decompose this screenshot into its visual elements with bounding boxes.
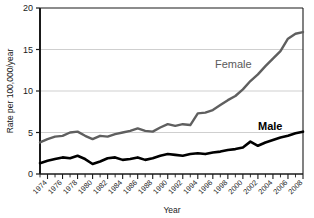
- y-axis-title: Rate per 100,000/year: [5, 49, 15, 134]
- y-tick-label: 5: [28, 128, 33, 138]
- y-tick-label: 20: [23, 3, 33, 13]
- chart-container: 05101520 1974197619781980198219841986198…: [0, 0, 314, 218]
- y-tick-label: 10: [23, 86, 33, 96]
- series-label-female: Female: [215, 58, 252, 70]
- x-axis-title: Year: [163, 205, 180, 215]
- y-tick-label: 0: [28, 169, 33, 179]
- line-chart: 05101520 1974197619781980198219841986198…: [0, 0, 314, 218]
- y-tick-label: 15: [23, 45, 33, 55]
- series-label-male: Male: [258, 120, 282, 132]
